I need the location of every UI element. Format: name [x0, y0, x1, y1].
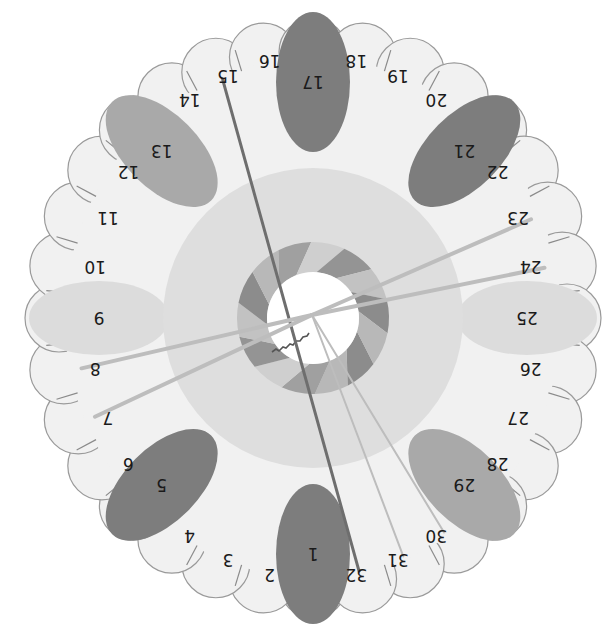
- label-14: 14: [179, 90, 201, 110]
- numbered-circle-diagram: 1234567891011121314151617181920212223242…: [0, 0, 616, 637]
- label-3: 3: [223, 550, 234, 570]
- label-25: 25: [516, 308, 538, 328]
- label-31: 31: [387, 550, 409, 570]
- label-24: 24: [520, 257, 542, 277]
- label-26: 26: [520, 359, 542, 379]
- label-32: 32: [345, 565, 367, 585]
- label-1: 1: [308, 544, 319, 564]
- label-4: 4: [184, 526, 195, 546]
- label-23: 23: [507, 208, 529, 228]
- label-18: 18: [345, 51, 367, 71]
- label-8: 8: [90, 359, 101, 379]
- label-11: 11: [97, 208, 119, 228]
- label-30: 30: [426, 526, 448, 546]
- label-13: 13: [151, 141, 173, 161]
- label-22: 22: [487, 162, 509, 182]
- label-10: 10: [84, 257, 106, 277]
- label-15: 15: [217, 66, 239, 86]
- label-27: 27: [507, 408, 529, 428]
- label-2: 2: [264, 565, 275, 585]
- label-6: 6: [123, 454, 134, 474]
- label-5: 5: [156, 475, 167, 495]
- label-29: 29: [454, 475, 476, 495]
- label-9: 9: [94, 308, 105, 328]
- label-28: 28: [487, 454, 509, 474]
- label-19: 19: [387, 66, 409, 86]
- label-17: 17: [302, 72, 324, 92]
- label-12: 12: [118, 162, 140, 182]
- label-7: 7: [102, 408, 113, 428]
- label-21: 21: [454, 141, 476, 161]
- label-20: 20: [426, 90, 448, 110]
- label-16: 16: [259, 51, 281, 71]
